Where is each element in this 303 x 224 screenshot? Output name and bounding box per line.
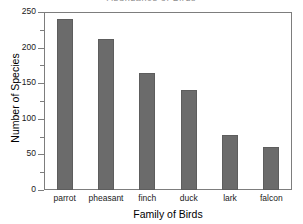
chart-title: Abundance of Birds (0, 0, 303, 3)
y-tick-0 (38, 190, 44, 191)
y-tick-minor-125 (40, 101, 44, 102)
y-tick-50 (38, 154, 44, 155)
y-tick-label-150-wrap: 150 (0, 78, 36, 88)
y-tick-label-200: 200 (2, 43, 36, 52)
y-tick-label-150: 150 (2, 78, 36, 87)
y-tick-minor-225 (40, 30, 44, 31)
bar-parrot[interactable] (57, 19, 73, 190)
y-tick-label-50-wrap: 50 (0, 149, 36, 159)
y-tick-label-0-wrap: 0 (0, 185, 36, 195)
y-tick-minor-175 (40, 65, 44, 66)
y-tick-100 (38, 119, 44, 120)
y-tick-200 (38, 48, 44, 49)
x-axis-title: Family of Birds (44, 208, 292, 220)
bar-chart-screenshot: Abundance of Birds Number of Species 250… (0, 0, 303, 224)
y-tick-label-250-wrap: 250 (0, 7, 36, 17)
bar-falcon[interactable] (263, 147, 279, 190)
y-tick-minor-25 (40, 172, 44, 173)
y-tick-250 (38, 12, 44, 13)
x-tick-label-falcon: falcon (241, 193, 301, 203)
y-tick-150 (38, 83, 44, 84)
y-tick-label-250: 250 (2, 7, 36, 16)
y-tick-label-100: 100 (2, 114, 36, 123)
y-tick-label-0: 0 (2, 185, 36, 194)
y-tick-label-50: 50 (2, 149, 36, 158)
bar-lark[interactable] (222, 135, 238, 190)
y-tick-minor-75 (40, 137, 44, 138)
y-tick-label-100-wrap: 100 (0, 114, 36, 124)
bar-finch[interactable] (139, 73, 155, 190)
bar-pheasant[interactable] (98, 39, 114, 190)
y-tick-label-200-wrap: 200 (0, 43, 36, 53)
plot-area (44, 12, 292, 190)
bar-duck[interactable] (181, 90, 197, 190)
